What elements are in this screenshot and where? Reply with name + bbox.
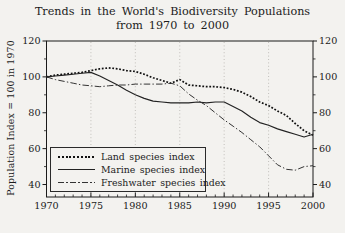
legend-item-marine: Marine species index	[58, 163, 205, 176]
legend-item-land: Land species index	[58, 150, 205, 163]
svg-text:120: 120	[22, 35, 40, 46]
svg-text:100: 100	[319, 71, 337, 82]
svg-text:100: 100	[22, 71, 40, 82]
chart-figure: Trends in the World's Biodiversity Popul…	[0, 0, 345, 233]
svg-text:1995: 1995	[256, 200, 280, 211]
svg-text:1990: 1990	[212, 200, 236, 211]
svg-text:120: 120	[319, 35, 337, 46]
legend-label-marine: Marine species index	[101, 164, 205, 175]
svg-text:60: 60	[28, 143, 40, 154]
svg-text:1975: 1975	[79, 200, 103, 211]
svg-text:40: 40	[28, 179, 40, 190]
legend-box: Land species index Marine species index …	[50, 147, 206, 192]
svg-text:1985: 1985	[168, 200, 192, 211]
svg-text:80: 80	[28, 107, 40, 118]
svg-text:40: 40	[319, 179, 331, 190]
legend-label-land: Land species index	[101, 151, 195, 162]
svg-text:80: 80	[319, 107, 331, 118]
plot-area: 4040606080801001001201201970197519801985…	[0, 0, 345, 233]
marine-line-sample-icon	[58, 169, 95, 170]
freshwater-line-sample-icon	[58, 182, 95, 183]
land-line-sample-icon	[58, 156, 95, 158]
svg-text:1980: 1980	[123, 200, 147, 211]
svg-text:1970: 1970	[34, 200, 58, 211]
legend-item-freshwater: Freshwater species index	[58, 176, 205, 189]
legend-label-freshwater: Freshwater species index	[101, 177, 226, 188]
svg-text:60: 60	[319, 143, 331, 154]
svg-text:2000: 2000	[301, 200, 325, 211]
